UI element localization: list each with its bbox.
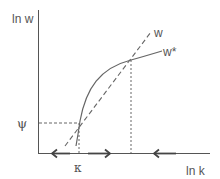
x-axis-label: ln k	[186, 164, 206, 178]
curve-w-star-label: w*	[162, 45, 177, 59]
arrow-left-icon	[52, 150, 70, 158]
arrow-left-icon	[154, 150, 176, 158]
arrow-right-icon	[88, 150, 110, 158]
psi-label: ψ	[17, 116, 27, 131]
line-w-label: w	[153, 26, 163, 40]
line-w	[65, 32, 151, 146]
kappa-label: κ	[74, 161, 82, 175]
y-axis-label: ln w	[12, 12, 34, 26]
phase-diagram: ln w ln k w w* ψ κ	[0, 0, 220, 179]
curve-w-star	[76, 51, 162, 146]
